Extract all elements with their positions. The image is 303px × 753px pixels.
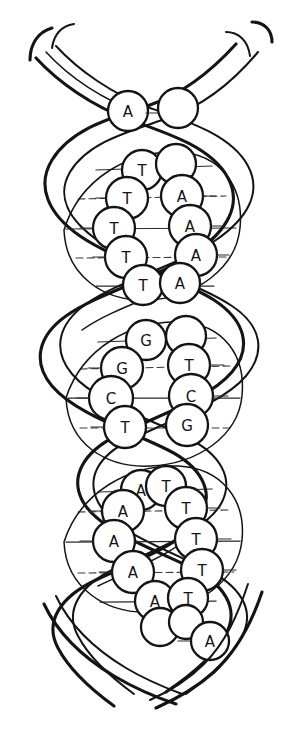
base-letter-s3-2-right: T [180, 500, 191, 518]
base-letter-s1-2-right: A [177, 188, 188, 206]
base-letter-s1-2-left: T [121, 190, 132, 208]
base-letter-s1-3-left: T [108, 220, 119, 238]
base-letter-s3-3-left: A [109, 533, 120, 551]
base-letter-s2-2-left: G [116, 360, 128, 378]
base-letter-s3-4-left: A [128, 564, 139, 582]
base-letter-s3-2-left: A [118, 503, 129, 521]
base-letter-s1-5-left: T [137, 277, 148, 295]
base-letter-s2-1-left: G [140, 332, 152, 350]
base-letter-s3-3-right: T [190, 531, 201, 549]
base-letter-bottom-solo: A [205, 633, 216, 651]
base-letter-s2-4-left: T [119, 419, 130, 437]
base-letter-s2-3-left: C [106, 390, 116, 408]
base-circle-top-partial [158, 88, 198, 128]
base-letter-s1-5-right: A [175, 275, 186, 293]
base-letter-s3-4-right: T [196, 562, 207, 580]
base-letter-s2-4-right: G [181, 417, 193, 435]
base-letter-s1-1-left: T [136, 162, 147, 180]
base-letter-s2-2-right: T [183, 357, 194, 375]
dna-figure-root: A T T A [0, 0, 303, 753]
base-letter-top-solo: A [123, 103, 134, 121]
dna-double-helix-drawing: A T T A [0, 0, 303, 753]
base-letter-s1-4-left: T [120, 249, 131, 267]
base-letter-s1-4-right: A [191, 247, 202, 265]
